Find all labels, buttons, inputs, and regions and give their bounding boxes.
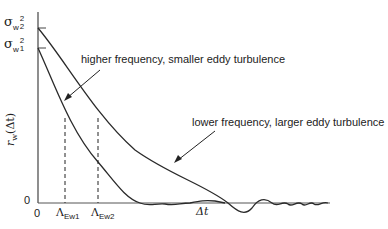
low-annotation-arrow bbox=[178, 131, 215, 160]
delta-t-label: Δt bbox=[196, 205, 208, 218]
high-frequency-annotation: higher frequency, smaller eddy turbulenc… bbox=[81, 53, 285, 65]
sigma2-label: σw22 bbox=[4, 14, 24, 32]
lambda-ew2-label: ΛEw2 bbox=[91, 206, 115, 221]
sigma1-label: σw21 bbox=[4, 36, 24, 54]
low-frequency-annotation: lower frequency, larger eddy turbulence bbox=[192, 116, 384, 128]
x-origin-label: 0 bbox=[34, 207, 40, 219]
diagram-canvas bbox=[0, 0, 388, 229]
y-zero-label: 0 bbox=[24, 194, 30, 206]
lambda-ew1-label: ΛEw1 bbox=[56, 206, 80, 221]
arrowhead-icon bbox=[174, 155, 182, 163]
y-axis-label: rw(Δt) bbox=[4, 113, 19, 146]
